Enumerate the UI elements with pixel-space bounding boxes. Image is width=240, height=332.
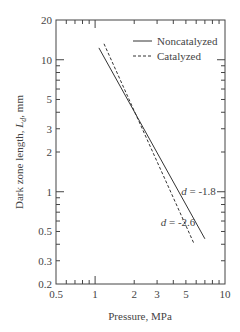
legend: Noncatalyzed Catalyzed xyxy=(133,35,218,62)
x-axis-label: Pressure, MPa xyxy=(108,310,172,322)
legend-label-noncatalyzed: Noncatalyzed xyxy=(157,35,218,47)
legend-label-catalyzed: Catalyzed xyxy=(157,50,201,62)
chart: 0.51235100.20.30.512351020 Noncatalyzed … xyxy=(0,0,240,332)
x-tick-label: 5 xyxy=(183,288,189,300)
data-series xyxy=(99,44,205,245)
y-tick-label: 3 xyxy=(47,123,53,135)
x-tick-label: 10 xyxy=(220,288,232,300)
y-tick-label: 0.3 xyxy=(38,255,52,267)
x-tick-label: 1 xyxy=(92,288,98,300)
y-tick-label: 0.2 xyxy=(38,278,52,290)
y-tick-label: 0.5 xyxy=(38,225,52,237)
series-noncatalyzed-line xyxy=(99,48,205,239)
y-tick-label: 5 xyxy=(47,93,53,105)
y-tick-label: 20 xyxy=(41,14,53,26)
axis-ticks: 0.51235100.20.30.512351020 xyxy=(38,14,231,300)
y-tick-label: 10 xyxy=(41,54,53,66)
y-tick-label: 1 xyxy=(47,186,53,198)
annotations: d = -1.8d = -2.6 xyxy=(161,185,217,228)
series-catalyzed-line xyxy=(104,44,194,245)
slope-annotation: d = -1.8 xyxy=(181,185,216,197)
x-tick-label: 3 xyxy=(154,288,160,300)
y-axis-label: Dark zone length, Ld, mm xyxy=(13,95,28,209)
slope-annotation: d = -2.6 xyxy=(161,216,196,228)
x-tick-label: 2 xyxy=(131,288,137,300)
y-tick-label: 2 xyxy=(47,146,53,158)
svg-text:Dark zone length, Ld, mm: Dark zone length, Ld, mm xyxy=(13,95,28,209)
